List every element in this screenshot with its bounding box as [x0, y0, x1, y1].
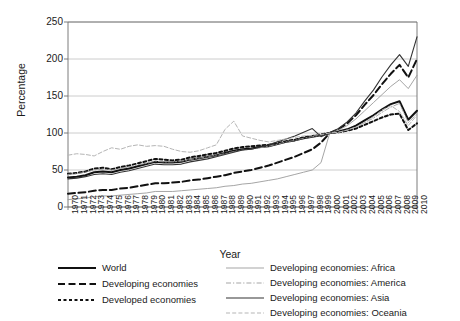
- series-line: [68, 37, 417, 179]
- plot-area: [68, 22, 417, 207]
- legend-swatch-icon: [226, 264, 264, 272]
- x-axis-title: Year: [0, 248, 460, 260]
- series-line: [68, 75, 417, 199]
- y-tick-label: 50: [52, 165, 63, 175]
- y-tick-label: 250: [46, 17, 63, 27]
- legend-item[interactable]: Developing economies: America: [226, 277, 441, 288]
- legend-label: Developing economies: [102, 279, 198, 289]
- legend-swatch-icon: [226, 279, 264, 287]
- chart-figure: 050100150200250 Percentage 1970197119721…: [0, 0, 460, 321]
- y-axis-title: Percentage: [15, 45, 27, 135]
- legend-column-right: Developing economies: AfricaDeveloping e…: [226, 262, 441, 318]
- legend-item[interactable]: Developing economies: [58, 278, 208, 290]
- legend-label: Developed economies: [102, 295, 196, 305]
- legend-item[interactable]: Developing economies: Asia: [226, 292, 441, 303]
- legend-label: Developing economies: Asia: [270, 293, 389, 303]
- series-line: [68, 103, 417, 174]
- y-tick-label: 0: [57, 202, 63, 212]
- legend-swatch-icon: [58, 280, 96, 288]
- legend-swatch-icon: [58, 296, 96, 304]
- legend-label: Developing economies: Oceania: [270, 308, 407, 318]
- legend-label: Developing economies: America: [270, 278, 406, 288]
- line-chart-svg: [68, 22, 417, 212]
- legend-item[interactable]: Developing economies: Africa: [226, 262, 441, 273]
- x-axis-tick-labels: 1970197119721973197419751976197719781979…: [68, 210, 417, 248]
- legend-item[interactable]: Developed economies: [58, 294, 208, 306]
- series-line: [68, 59, 417, 194]
- legend-swatch-icon: [58, 264, 96, 272]
- y-tick-label: 100: [46, 128, 63, 138]
- chart-legend: WorldDeveloping economiesDeveloped econo…: [58, 262, 448, 318]
- legend-swatch-icon: [226, 294, 264, 302]
- legend-label: World: [102, 263, 127, 273]
- x-tick-label: 1997: [307, 195, 316, 214]
- legend-label: Developing economies: Africa: [270, 263, 395, 273]
- y-tick-label: 200: [46, 54, 63, 64]
- legend-swatch-icon: [226, 309, 264, 317]
- legend-column-left: WorldDeveloping economiesDeveloped econo…: [58, 262, 208, 318]
- y-tick-label: 150: [46, 91, 63, 101]
- legend-item[interactable]: World: [58, 262, 208, 274]
- x-tick-label: 2010: [420, 195, 429, 214]
- legend-item[interactable]: Developing economies: Oceania: [226, 307, 441, 318]
- series-line: [68, 101, 417, 177]
